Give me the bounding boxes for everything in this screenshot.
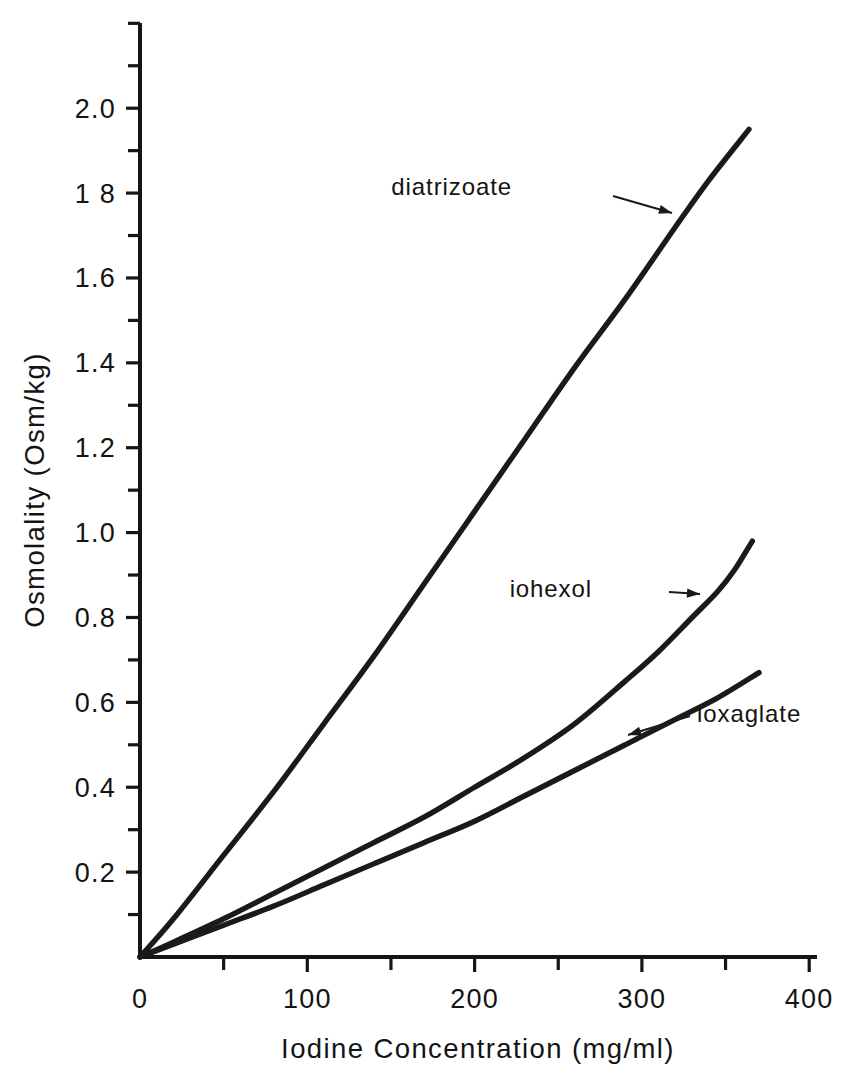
y-axis-title: Osmolality (Osm/kg) (19, 352, 50, 628)
y-tick-label: 2.0 (75, 94, 116, 124)
y-tick-labels: 0.20.40.60.81.01.21.41.61 82.0 (75, 94, 116, 888)
y-tick-label: 0.2 (75, 858, 116, 888)
chart-canvas: 0.20.40.60.81.01.21.41.61 82.0 010020030… (0, 0, 860, 1082)
y-tick-label: 1.4 (75, 348, 116, 378)
y-tick-label: 0.8 (75, 603, 116, 633)
x-axis-title: Iodine Concentration (mg/ml) (281, 1033, 675, 1064)
x-ticks-group (224, 957, 810, 972)
figure-container: 0.20.40.60.81.01.21.41.61 82.0 010020030… (0, 0, 860, 1082)
annotation-arrowhead-icon (658, 205, 672, 214)
annotation-arrowhead-icon (628, 727, 642, 736)
y-tick-label: 1.6 (75, 263, 116, 293)
x-tick-label: 0 (132, 984, 148, 1014)
x-tick-label: 200 (450, 984, 499, 1014)
series-annotations-group: diatrizoateiohexolioxaglate (391, 173, 801, 736)
x-tick-label: 400 (785, 984, 834, 1014)
series-curves-group (140, 129, 759, 957)
y-tick-label: 1.2 (75, 433, 116, 463)
series-label-diatrizoate: diatrizoate (391, 173, 512, 200)
y-tick-label: 0.6 (75, 688, 116, 718)
y-tick-label: 1.0 (75, 518, 116, 548)
x-tick-label: 300 (618, 984, 667, 1014)
series-label-iohexol: iohexol (510, 575, 592, 602)
y-tick-label: 0.4 (75, 773, 116, 803)
series-label-ioxaglate: ioxaglate (697, 700, 801, 727)
x-tick-labels: 0100200300400 (132, 984, 834, 1014)
annotation-arrowhead-icon (687, 589, 700, 598)
series-curve-iohexol (140, 541, 752, 957)
y-ticks-group (126, 23, 140, 914)
x-tick-label: 100 (283, 984, 332, 1014)
y-tick-label: 1 8 (75, 179, 116, 209)
